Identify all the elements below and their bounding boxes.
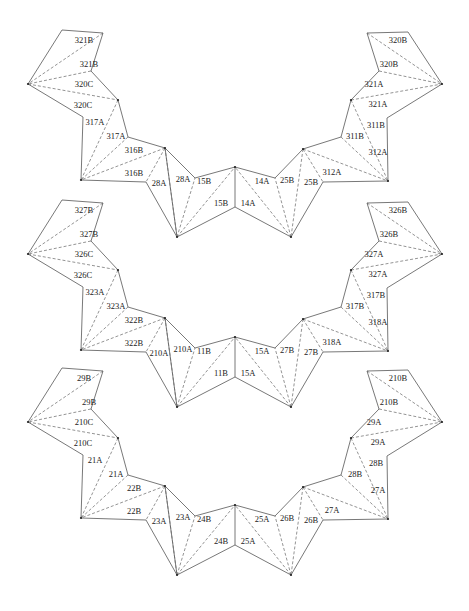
face-label: 28A <box>152 178 168 188</box>
vertex-dot <box>176 236 178 238</box>
cut-edge <box>323 351 388 352</box>
vertex-dot <box>387 518 389 520</box>
cut-edge <box>291 520 323 575</box>
face-label: 25A <box>241 536 257 546</box>
face-label: 326B <box>389 205 408 215</box>
face-label: 25A <box>255 514 271 524</box>
fold-line <box>81 318 165 350</box>
fold-line <box>146 148 165 182</box>
cut-edge <box>177 545 235 575</box>
face-label: 26B <box>280 513 295 523</box>
vertex-dot <box>441 421 443 423</box>
face-label: 327A <box>365 249 385 259</box>
cut-edge <box>387 456 388 519</box>
vertex-dot <box>80 517 82 519</box>
cut-edge <box>91 241 118 270</box>
vertex-dot <box>302 148 304 150</box>
fold-line <box>341 137 388 181</box>
cut-edge <box>275 319 303 348</box>
vertex-dot <box>176 406 178 408</box>
fold-line <box>275 178 291 237</box>
cut-edge <box>387 84 442 118</box>
cut-edge <box>28 200 62 254</box>
face-label: 327B <box>75 205 94 215</box>
face-label: 320C <box>75 79 94 89</box>
cut-edge <box>146 520 177 575</box>
face-label: 326B <box>380 229 399 239</box>
vertex-dot <box>387 350 389 352</box>
face-label: 318A <box>369 317 389 327</box>
cut-edge <box>408 370 442 422</box>
face-label: 27B <box>280 345 295 355</box>
face-label: 323A <box>86 287 106 297</box>
face-label: 317A <box>86 117 106 127</box>
cut-edge <box>62 200 103 203</box>
fold-line <box>81 137 128 180</box>
vertex-dot <box>290 574 292 576</box>
cut-edge <box>28 368 62 422</box>
cut-edge <box>303 307 341 319</box>
face-label: 326C <box>74 270 93 280</box>
face-label: 210C <box>74 438 93 448</box>
fold-line <box>379 241 442 254</box>
cut-edge <box>367 203 379 241</box>
vertex-dot <box>164 147 166 149</box>
cut-edge <box>387 422 442 456</box>
face-label: 210C <box>75 417 94 427</box>
face-label: 23A <box>152 516 168 526</box>
face-label: 317B <box>346 301 365 311</box>
cut-edge <box>367 32 408 33</box>
face-label: 322B <box>125 315 144 325</box>
vertex-dot <box>80 349 82 351</box>
face-label: 326C <box>75 249 94 259</box>
face-label: 321A <box>365 79 385 89</box>
fold-line <box>341 475 388 519</box>
face-label: 317B <box>367 290 386 300</box>
cut-edge <box>177 377 235 407</box>
face-label: 28A <box>176 174 192 184</box>
face-label: 15A <box>255 346 271 356</box>
face-label: 320B <box>380 59 399 69</box>
face-label: 318A <box>323 337 343 347</box>
fold-line <box>379 409 442 422</box>
face-label: 25B <box>304 177 319 187</box>
cut-edge <box>387 254 442 288</box>
fold-line <box>177 348 195 407</box>
face-label: 22B <box>127 506 142 516</box>
vertex-dot <box>441 83 443 85</box>
cut-edge <box>408 202 442 254</box>
face-label: 29B <box>82 397 97 407</box>
fold-line <box>379 71 442 84</box>
face-label: 210A <box>174 344 194 354</box>
face-label: 210B <box>380 397 399 407</box>
face-label: 320B <box>389 35 408 45</box>
fold-line <box>81 148 165 180</box>
cut-edge <box>367 371 379 409</box>
face-label: 210B <box>389 373 408 383</box>
vertex-dot <box>350 269 352 271</box>
face-label: 327B <box>80 229 99 239</box>
face-label: 21A <box>109 469 125 479</box>
vertex-dot <box>441 253 443 255</box>
face-label: 29A <box>371 437 387 447</box>
fold-line <box>341 307 388 351</box>
cut-edge <box>81 287 83 350</box>
fold-line <box>275 516 291 575</box>
vertex-dot <box>27 83 29 85</box>
cut-edge <box>146 352 177 407</box>
cut-edge <box>235 207 291 237</box>
vertex-dot <box>80 179 82 181</box>
cut-edge <box>177 207 235 237</box>
cut-edge <box>367 202 408 203</box>
face-label: 321A <box>369 99 389 109</box>
fold-line <box>291 149 303 237</box>
cut-edge <box>303 475 341 487</box>
face-label: 327A <box>369 269 389 279</box>
cut-edge <box>367 33 379 71</box>
face-label: 28B <box>369 458 384 468</box>
cut-edge <box>81 180 146 182</box>
face-label: 24B <box>197 514 212 524</box>
vertex-dot <box>302 486 304 488</box>
vertex-dot <box>234 166 236 168</box>
vertex-dot <box>117 437 119 439</box>
